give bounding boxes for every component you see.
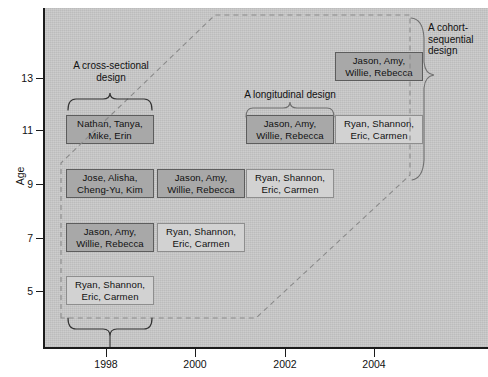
- cross-sectional-line2: design: [56, 72, 166, 84]
- cohort-sequential-line2: sequential: [428, 34, 486, 46]
- cross-sectional-line1: A cross-sectional: [56, 60, 166, 72]
- cross-sectional-annotation: A cross-sectional design: [56, 60, 166, 83]
- cohort-bottom-brace: [68, 318, 152, 336]
- longitudinal-line1: A longitudinal design: [228, 89, 352, 101]
- cross-sectional-brace: [68, 93, 152, 110]
- chart-root: Age 13119751998200020022004Nathan, Tanya…: [0, 0, 488, 377]
- cohort-sequential-line1: A cohort-: [428, 22, 486, 34]
- longitudinal-annotation: A longitudinal design: [228, 89, 352, 101]
- cohort-sequential-line3: design: [428, 45, 486, 57]
- longitudinal-brace: [246, 102, 334, 117]
- cohort-sequential-annotation: A cohort- sequential design: [428, 22, 486, 57]
- annotation-overlay: [0, 0, 488, 377]
